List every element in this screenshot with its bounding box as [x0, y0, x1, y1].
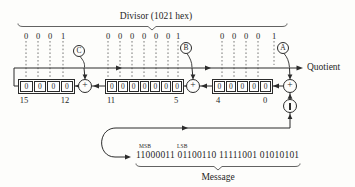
- register-index-15: 15: [20, 95, 29, 105]
- divisor-bit: 0: [166, 31, 170, 41]
- register-group-15-12: 0 0 0 0: [18, 79, 75, 94]
- divisor-bit: 0: [36, 31, 40, 41]
- divisor-bit: 0: [48, 31, 52, 41]
- divisor-bit: 0: [256, 31, 260, 41]
- divisor-bit: 0: [220, 31, 224, 41]
- register-index-5: 5: [174, 95, 178, 105]
- divisor-bit: 1: [176, 31, 180, 41]
- register-cell-2: 0: [237, 81, 248, 92]
- message-input-node: [283, 99, 297, 113]
- register-cell-1: 0: [249, 81, 260, 92]
- message-brace: [136, 164, 300, 171]
- divisor-bit: 1: [61, 31, 65, 41]
- message-feed-path: [102, 93, 290, 157]
- register-cell-12: 0: [61, 81, 74, 92]
- register-index-12: 12: [61, 95, 70, 105]
- tap-label-c: C: [73, 45, 85, 57]
- register-group-4-0: 0 0 0 0 0: [212, 79, 273, 94]
- register-cell-3: 0: [226, 81, 237, 92]
- divisor-bit-dashed-lines: [26, 41, 274, 78]
- msb-label: MSB: [139, 143, 151, 149]
- divisor-bit: 0: [244, 31, 248, 41]
- register-cell-4: 0: [214, 81, 225, 92]
- register-cell-6: 0: [161, 81, 171, 92]
- register-group-11-5: 0 0 0 0 0 0 0: [105, 79, 184, 94]
- message-start-arrow: [125, 155, 131, 160]
- register-cell-15: 0: [20, 81, 33, 92]
- input-node-bar-icon: [289, 103, 291, 110]
- crc-shift-register-diagram: Divisor (1021 hex) 0 0 0 1 0 0 0 0 0 0 1…: [0, 0, 355, 187]
- xor-gate-b: +: [186, 79, 200, 93]
- divisor-brace: [18, 24, 287, 31]
- divisor-bit: 0: [118, 31, 122, 41]
- register-index-11: 11: [107, 95, 115, 105]
- register-cell-9: 0: [129, 81, 139, 92]
- divisor-bit: 0: [142, 31, 146, 41]
- tap-label-a: A: [277, 42, 289, 54]
- message-bits: 11000011 01100110 11111001 01010101: [136, 150, 299, 160]
- divisor-bit: 0: [232, 31, 236, 41]
- register-cell-0: 0: [260, 81, 271, 92]
- lsb-label: LSB: [177, 143, 188, 149]
- register-cell-13: 0: [47, 81, 60, 92]
- tap-label-b: B: [180, 42, 192, 54]
- register-index-4: 4: [216, 95, 220, 105]
- quotient-arrow: [297, 65, 304, 70]
- divisor-bit: 0: [130, 31, 134, 41]
- divisor-bit: 1: [272, 31, 276, 41]
- register-index-0: 0: [263, 95, 267, 105]
- register-cell-7: 0: [150, 81, 160, 92]
- divisor-title: Divisor (1021 hex): [120, 11, 192, 21]
- xor-gate-a: +: [283, 79, 297, 93]
- tap-drop-lines: [84, 68, 290, 79]
- xor-gate-c: +: [78, 79, 92, 93]
- divisor-bit: 0: [154, 31, 158, 41]
- divisor-bit: 0: [106, 31, 110, 41]
- register-cell-5: 0: [172, 81, 182, 92]
- register-cell-11: 0: [107, 81, 117, 92]
- quotient-label: Quotient: [307, 62, 340, 72]
- register-cell-8: 0: [140, 81, 150, 92]
- message-label: Message: [201, 172, 234, 182]
- register-cell-14: 0: [34, 81, 47, 92]
- register-cell-10: 0: [118, 81, 128, 92]
- divisor-bit: 0: [24, 31, 28, 41]
